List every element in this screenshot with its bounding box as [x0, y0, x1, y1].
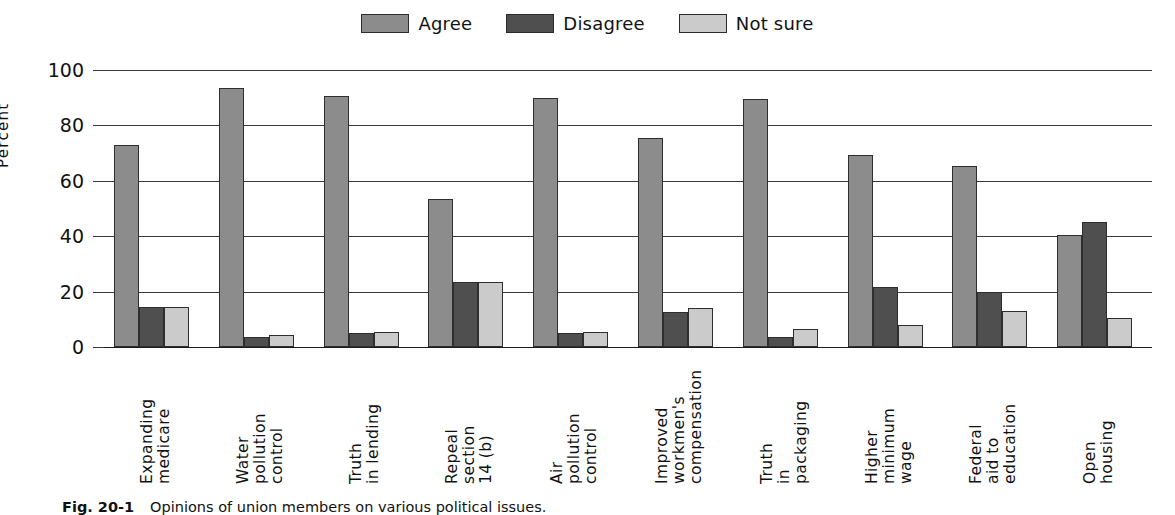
- legend-label-not-sure: Not sure: [736, 14, 814, 33]
- x-axis-label-line: aid to: [985, 403, 1002, 484]
- bar: [743, 99, 768, 347]
- y-tick-label-20: 20: [60, 282, 84, 301]
- x-axis-label-line: in lending: [365, 403, 382, 484]
- y-tick-label-0: 0: [72, 338, 84, 357]
- y-tick-mark-20: [93, 292, 104, 293]
- x-axis-label-line: control: [583, 413, 600, 484]
- bar: [349, 333, 374, 347]
- x-axis-label-line: education: [1002, 403, 1019, 484]
- x-axis-label: Improvedworkmen'scompensation: [654, 370, 705, 484]
- y-tick-label-40: 40: [60, 227, 84, 246]
- figure-container: Agree Disagree Not sure Percent 02040608…: [0, 0, 1175, 515]
- x-axis-label-line: Federal: [968, 403, 985, 484]
- x-axis-label-line: housing: [1099, 420, 1116, 484]
- bar: [1082, 222, 1107, 347]
- y-tick-label-60: 60: [60, 171, 84, 190]
- bar-series-container: [104, 70, 1152, 347]
- x-axis-label: Repealsection14 (b): [444, 425, 495, 484]
- bar: [324, 96, 349, 347]
- bar: [848, 155, 873, 348]
- bar-group: [743, 70, 818, 347]
- x-axis-label: Expandingmedicare: [139, 398, 173, 484]
- bar: [898, 325, 923, 347]
- bar-group: [1057, 70, 1132, 347]
- bar: [219, 88, 244, 347]
- bar: [428, 199, 453, 347]
- x-axis-label: Federalaid toeducation: [968, 403, 1019, 484]
- bar: [977, 292, 1002, 347]
- bar: [768, 337, 793, 347]
- figure-caption-text: Opinions of union members on various pol…: [150, 499, 546, 515]
- bar: [453, 282, 478, 347]
- legend-entry-agree: Agree: [361, 14, 472, 33]
- legend-entry-disagree: Disagree: [506, 14, 644, 33]
- bar: [114, 145, 139, 347]
- x-axis-category-labels: ExpandingmedicareWaterpollutioncontrolTr…: [104, 352, 1152, 492]
- x-axis-label-line: in: [776, 401, 793, 484]
- y-tick-mark-80: [93, 125, 104, 126]
- x-axis-label-line: Repeal: [444, 425, 461, 484]
- bar-group: [219, 70, 294, 347]
- figure-caption: Fig. 20-1Opinions of union members on va…: [62, 499, 546, 515]
- bar-group: [533, 70, 608, 347]
- x-axis-label-line: section: [461, 425, 478, 484]
- x-axis-label-line: Improved: [654, 370, 671, 484]
- x-axis-label-line: packaging: [793, 401, 810, 484]
- legend-swatch-agree-icon: [361, 14, 409, 33]
- bar: [374, 332, 399, 347]
- x-axis-label: Waterpollutioncontrol: [235, 413, 286, 484]
- x-axis-label: Truthinpackaging: [759, 401, 810, 484]
- x-axis-label: Openhousing: [1082, 420, 1116, 484]
- bar-group: [324, 70, 399, 347]
- bar: [873, 287, 898, 347]
- y-tick-mark-0: [93, 347, 104, 348]
- bar-group: [428, 70, 503, 347]
- y-tick-mark-60: [93, 181, 104, 182]
- gridline-0: [104, 347, 1152, 348]
- chart-legend: Agree Disagree Not sure: [0, 14, 1175, 33]
- x-axis-label-line: compensation: [688, 370, 705, 484]
- y-tick-label-100: 100: [48, 61, 84, 80]
- legend-label-agree: Agree: [418, 14, 472, 33]
- y-tick-mark-40: [93, 236, 104, 237]
- x-axis-label-line: control: [269, 413, 286, 484]
- bar: [952, 166, 977, 347]
- legend-swatch-disagree-icon: [506, 14, 554, 33]
- bar: [583, 332, 608, 347]
- legend-entry-not-sure: Not sure: [679, 14, 814, 33]
- bar: [164, 307, 189, 347]
- x-axis-label-line: minimum: [881, 408, 898, 484]
- x-axis-label-line: pollution: [252, 413, 269, 484]
- bar: [638, 138, 663, 347]
- figure-number: Fig. 20-1: [62, 499, 134, 515]
- x-axis-label-line: Higher: [864, 408, 881, 484]
- bar: [663, 312, 688, 347]
- x-axis-label-line: wage: [898, 408, 915, 484]
- x-axis-label-line: Air: [549, 413, 566, 484]
- x-axis-label: Airpollutioncontrol: [549, 413, 600, 484]
- y-axis-tick-labels: 020406080100: [0, 70, 104, 347]
- bar-group: [638, 70, 713, 347]
- y-tick-mark-100: [93, 70, 104, 71]
- bar: [139, 307, 164, 347]
- legend-label-disagree: Disagree: [563, 14, 644, 33]
- bar: [1107, 318, 1132, 347]
- bar: [558, 333, 583, 347]
- x-axis-label: Higherminimumwage: [864, 408, 915, 484]
- x-axis-label-line: medicare: [156, 398, 173, 484]
- bar: [1002, 311, 1027, 347]
- bar-group: [114, 70, 189, 347]
- bar: [1057, 235, 1082, 347]
- x-axis-label-line: Open: [1082, 420, 1099, 484]
- x-axis-label-line: Water: [235, 413, 252, 484]
- bar: [269, 335, 294, 347]
- bar: [478, 282, 503, 347]
- x-axis-label-line: Truth: [348, 403, 365, 484]
- legend-swatch-not-sure-icon: [679, 14, 727, 33]
- x-axis-label-line: Expanding: [139, 398, 156, 484]
- x-axis-label-line: pollution: [566, 413, 583, 484]
- bar: [244, 337, 269, 347]
- bar-group: [952, 70, 1027, 347]
- x-axis-label-line: 14 (b): [478, 425, 495, 484]
- x-axis-label-line: Truth: [759, 401, 776, 484]
